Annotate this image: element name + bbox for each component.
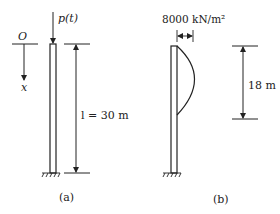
length-label: l = 30 m <box>81 109 129 122</box>
column <box>171 46 177 173</box>
load-label: p(t) <box>58 12 78 25</box>
diagram-canvas: O x p(t) l = 30 m (a) <box>0 0 280 214</box>
caption-a: (a) <box>59 191 74 204</box>
origin-label: O <box>18 30 27 43</box>
distributed-length-dimension: 18 m <box>232 46 276 119</box>
fixed-support-icon <box>42 173 60 177</box>
parabolic-load-curve <box>177 46 195 115</box>
magnitude-dimension <box>177 30 193 42</box>
caption-b: (b) <box>213 193 229 206</box>
column <box>50 44 56 173</box>
axis-label: x <box>21 81 28 94</box>
fixed-support-icon <box>163 173 181 177</box>
coordinate-axis: O x <box>12 30 38 94</box>
figure-a: O x p(t) l = 30 m (a) <box>12 12 129 204</box>
distributed-length-label: 18 m <box>248 79 276 92</box>
length-dimension: l = 30 m <box>64 44 129 173</box>
load-magnitude-label: 8000 kN/m² <box>162 13 225 25</box>
load-arrow: p(t) <box>53 12 78 43</box>
figure-b: 8000 kN/m² 18 m (b) <box>162 13 276 206</box>
